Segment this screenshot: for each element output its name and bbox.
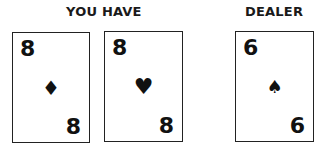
dealer-card-1: 6 ♠ 6	[235, 31, 314, 142]
card-rank-top: 6	[243, 37, 258, 59]
spade-suit-icon: ♠	[266, 76, 282, 96]
card-rank-bottom: 6	[290, 115, 305, 137]
card-rank-top: 8	[20, 38, 35, 60]
player-card-2: 8 ♥ 8	[104, 31, 183, 142]
diamond-suit-icon: ♦	[42, 77, 60, 97]
player-hand-label: YOU HAVE	[66, 4, 142, 19]
dealer-hand-label: DEALER	[245, 4, 303, 19]
card-rank-bottom: 8	[66, 116, 81, 138]
heart-suit-icon: ♥	[134, 76, 154, 96]
card-rank-bottom: 8	[159, 115, 174, 137]
card-rank-top: 8	[112, 37, 127, 59]
player-card-1: 8 ♦ 8	[12, 32, 90, 143]
